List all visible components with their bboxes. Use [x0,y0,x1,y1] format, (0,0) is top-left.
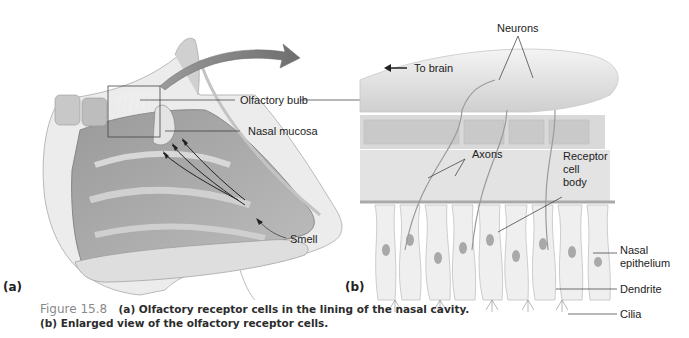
nasal-cavity-drawing [43,38,342,300]
label-olfactory-bulb: Olfactory bulb [240,94,308,107]
label-receptor-cell-body-2: cell [563,163,580,176]
panel-a-letter: (a) [3,280,22,294]
label-dendrite: Dendrite [620,283,662,296]
figure-number: Figure 15.8 [40,302,107,316]
label-nasal-epithelium-1: Nasal [620,244,648,257]
label-nasal-epithelium-2: epithelium [620,257,670,270]
label-nasal-mucosa: Nasal mucosa [248,125,318,138]
panel-b-letter: (b) [345,280,365,294]
caption-line-1: (a) Olfactory receptor cells in the lini… [119,303,470,315]
label-axons: Axons [472,148,503,161]
label-receptor-cell-body-3: body [563,176,587,189]
label-to-brain: To brain [414,62,453,75]
label-receptor-cell-body-1: Receptor [563,150,608,163]
label-cilia: Cilia [620,308,641,321]
caption-line-2: (b) Enlarged view of the olfactory recep… [40,317,328,329]
label-neurons: Neurons [497,22,539,35]
label-smell: Smell [290,233,318,246]
figure-caption: Figure 15.8 (a) Olfactory receptor cells… [40,302,469,330]
